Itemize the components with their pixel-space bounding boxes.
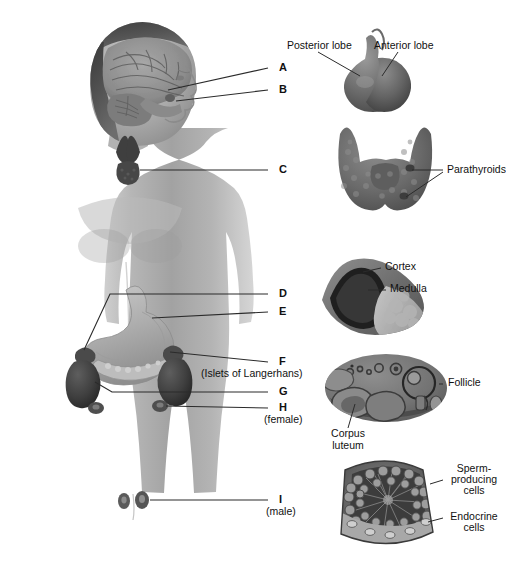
ovulation-site — [416, 396, 425, 410]
label-cortex: Cortex — [385, 261, 416, 273]
label-corpus-luteum-line2: luteum — [318, 440, 378, 452]
label-corpus-luteum-line1: Corpus — [318, 428, 378, 440]
label-d: D — [279, 288, 287, 300]
label-e: E — [279, 306, 286, 318]
follicle-antrum — [408, 372, 421, 385]
testis-highlight-r — [121, 497, 126, 504]
testis-highlight-l — [139, 495, 145, 503]
label-a: A — [279, 62, 287, 74]
label-sperm-line3: cells — [444, 485, 504, 497]
label-f: F — [279, 356, 286, 368]
label-h: H — [279, 402, 287, 414]
label-f-sublabel: (Islets of Langerhans) — [201, 368, 303, 380]
label-anterior-lobe: Anterior lobe — [374, 40, 434, 52]
ovary-right-highlight — [157, 402, 164, 407]
eye — [176, 76, 184, 81]
label-parathyroids: Parathyroids — [447, 164, 506, 176]
pectoral-right — [130, 229, 182, 263]
label-medulla: Medulla — [390, 283, 427, 295]
label-h-sublabel: (female) — [264, 414, 303, 426]
label-i-sublabel: (male) — [266, 506, 296, 518]
ovary-left-highlight — [93, 404, 100, 409]
label-g: G — [279, 386, 288, 398]
tubule-center — [383, 495, 393, 505]
label-b: B — [279, 84, 287, 96]
pectoral-left — [78, 229, 130, 263]
follicle-ovum — [394, 367, 399, 372]
label-i: I — [279, 494, 282, 506]
label-endocrine-line2: cells — [444, 522, 504, 534]
thyroid-isthmus — [370, 163, 399, 190]
secondary-follicle — [366, 391, 405, 421]
label-c: C — [279, 164, 287, 176]
label-posterior-lobe: Posterior lobe — [287, 40, 352, 52]
pituitary-highlight — [356, 76, 374, 88]
label-follicle: Follicle — [448, 377, 481, 389]
pituitary-in-head — [165, 94, 175, 102]
